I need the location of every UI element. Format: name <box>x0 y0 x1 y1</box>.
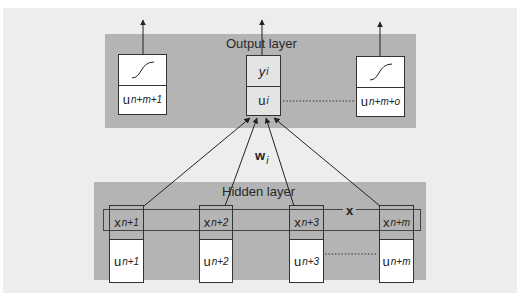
weight-arrow-2 <box>225 118 257 206</box>
weight-label-subscript: i <box>266 155 268 166</box>
input-vector-label: x <box>343 203 356 218</box>
weight-label-main: w <box>255 148 265 163</box>
weight-vector-label: wi <box>255 148 268 166</box>
weight-arrow-1 <box>144 118 250 206</box>
